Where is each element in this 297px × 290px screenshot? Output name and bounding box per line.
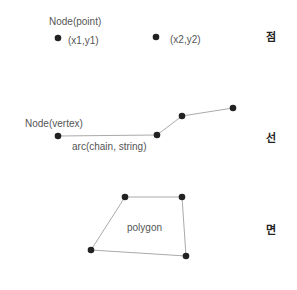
point-2-coord-label: (x2,y2) [170, 34, 201, 45]
vertex-node-2 [154, 132, 161, 139]
vertex-node-3 [179, 113, 186, 120]
point-1-coord-label: (x1,y1) [68, 35, 99, 46]
line-korean-label: 선 [266, 129, 276, 145]
vertex-node-4 [230, 105, 237, 112]
point-node-2 [153, 34, 160, 41]
point-korean-label: 점 [266, 28, 276, 44]
polygon-node-3 [88, 247, 95, 254]
line-edges [58, 108, 233, 136]
node-point-label: Node(point) [49, 16, 101, 27]
polygon-node-1 [122, 194, 129, 201]
arc-label: arc(chain, string) [72, 141, 146, 152]
diagram-canvas [0, 0, 297, 290]
node-vertex-label: Node(vertex) [25, 118, 83, 129]
polygon-node-4 [183, 253, 190, 260]
polygon-label: polygon [127, 222, 162, 233]
point-node-1 [55, 35, 62, 42]
polygon-node-2 [179, 194, 186, 201]
vertex-node-1 [55, 133, 62, 140]
polygon-korean-label: 면 [266, 221, 276, 237]
